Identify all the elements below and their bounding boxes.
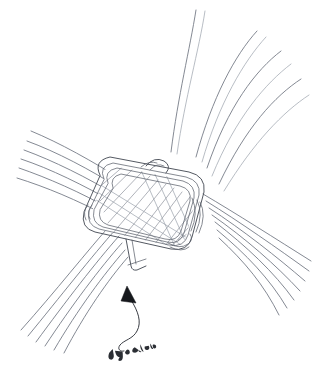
cord-bundle-lower-left: [21, 222, 128, 353]
annotation-pointer: [119, 286, 139, 351]
cord-bundle-lower-right: [203, 194, 311, 315]
illustration-canvas: Eye Splice Eye Splice Hand-drawn rope la…: [0, 0, 335, 377]
arrowhead-icon: [121, 286, 136, 303]
cord-tail-end: [126, 239, 146, 270]
cord-bundle-upper-right: [171, 10, 309, 191]
leader-line: [119, 300, 139, 351]
rope-lashing-drawing: Eye Splice: [0, 0, 335, 377]
handwritten-caption: Eye Splice: [107, 340, 166, 370]
